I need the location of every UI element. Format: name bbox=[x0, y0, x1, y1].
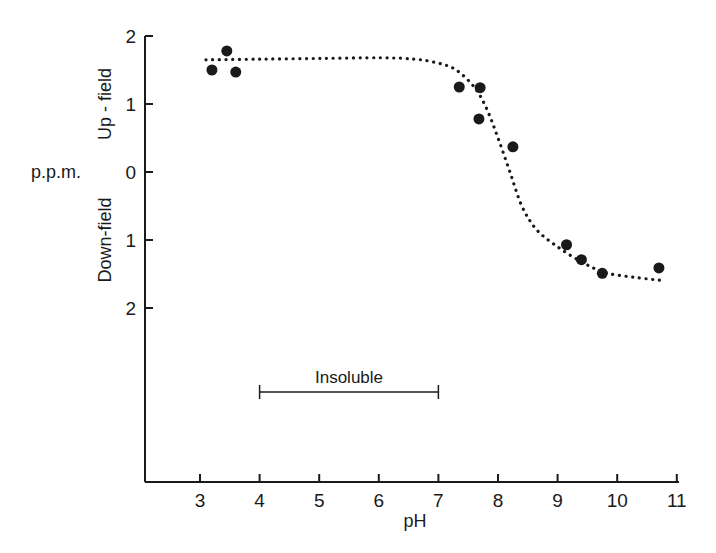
y-ticks: 21012 bbox=[125, 26, 153, 319]
data-point bbox=[561, 239, 572, 250]
x-tick-label: 6 bbox=[374, 490, 385, 511]
x-tick-label: 10 bbox=[607, 490, 628, 511]
data-point bbox=[653, 262, 664, 273]
data-points bbox=[206, 45, 664, 278]
data-point bbox=[454, 82, 465, 93]
chart: 21012 34567891011 pH p.p.m. Up - field D… bbox=[0, 0, 716, 553]
x-tick-label: 9 bbox=[552, 490, 563, 511]
downfield-label: Down-field bbox=[95, 197, 115, 282]
data-point bbox=[507, 141, 518, 152]
data-point bbox=[230, 67, 241, 78]
insoluble-range-annotation: Insoluble bbox=[260, 368, 439, 399]
fitted-curve-path bbox=[206, 58, 665, 281]
y-tick-label: 1 bbox=[125, 94, 136, 115]
x-axis-label: pH bbox=[403, 511, 426, 531]
fitted-curve bbox=[206, 58, 665, 281]
data-point bbox=[221, 45, 232, 56]
y-tick-label: 1 bbox=[125, 230, 136, 251]
x-tick-label: 7 bbox=[433, 490, 444, 511]
insoluble-label: Insoluble bbox=[315, 368, 383, 387]
y-tick-label: 0 bbox=[125, 162, 136, 183]
x-tick-label: 8 bbox=[493, 490, 504, 511]
y-tick-label: 2 bbox=[125, 298, 136, 319]
x-tick-label: 3 bbox=[195, 490, 206, 511]
y-axis-label: p.p.m. bbox=[31, 162, 81, 182]
y-tick-label: 2 bbox=[125, 26, 136, 47]
data-point bbox=[597, 268, 608, 279]
data-point bbox=[576, 254, 587, 265]
x-tick-label: 5 bbox=[314, 490, 325, 511]
data-point bbox=[475, 82, 486, 93]
data-point bbox=[206, 65, 217, 76]
x-tick-label: 4 bbox=[254, 490, 265, 511]
x-ticks: 34567891011 bbox=[195, 474, 687, 511]
data-point bbox=[473, 113, 484, 124]
x-tick-label: 11 bbox=[667, 490, 687, 511]
upfield-label: Up - field bbox=[95, 68, 115, 140]
